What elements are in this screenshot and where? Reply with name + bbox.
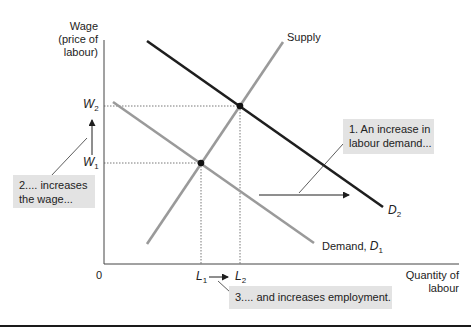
demand1-label: Demand, D1 <box>322 240 383 257</box>
callout-wage-increase: 2.... increases the wage... <box>13 175 95 208</box>
bottom-rule <box>0 325 471 327</box>
y-axis-label-line2: (price of <box>50 33 98 46</box>
demand1-prefix: Demand, <box>322 240 370 252</box>
supply-curve <box>147 42 283 244</box>
l1-base: L <box>196 269 203 283</box>
callout1-line1: 1. An increase in <box>349 122 428 136</box>
l2-sub: 2 <box>242 276 246 285</box>
l2-label: L2 <box>235 270 246 287</box>
demand1-curve <box>113 102 314 243</box>
callout-demand-increase: 1. An increase in labour demand... <box>343 119 434 154</box>
w1-base: W <box>83 155 94 169</box>
origin-label: 0 <box>96 269 102 282</box>
x-axis-label-line1: Quantity of <box>385 269 459 282</box>
w2-base: W <box>83 97 94 111</box>
l1-label: L1 <box>196 270 207 287</box>
demand2-base: D <box>388 203 397 217</box>
demand2-label: D2 <box>388 204 401 221</box>
callout1-line2: labour demand... <box>349 136 428 150</box>
callout2-line2: the wage... <box>19 192 89 206</box>
equilibrium-point-2 <box>237 103 244 110</box>
equilibrium-point-1 <box>198 160 205 167</box>
demand2-sub: 2 <box>397 210 401 219</box>
callout-employment-increase: 3.... and increases employment. <box>229 286 392 309</box>
w1-label: W1 <box>83 156 99 173</box>
l1-sub: 1 <box>203 276 207 285</box>
w2-sub: 2 <box>94 104 98 113</box>
x-axis-label: Quantity of labour <box>385 269 459 295</box>
callout3-text: 3.... and increases employment. <box>235 291 391 303</box>
w2-label: W2 <box>83 98 99 115</box>
callout2-line1: 2.... increases <box>19 178 89 192</box>
w1-sub: 1 <box>94 162 98 171</box>
callout2-leader <box>51 138 87 176</box>
supply-label: Supply <box>287 31 321 44</box>
demand1-sub: 1 <box>378 246 382 255</box>
y-axis-label: Wage (price of labour) <box>50 20 98 59</box>
x-axis-label-line2: labour <box>385 282 459 295</box>
y-axis-label-line1: Wage <box>50 20 98 33</box>
l2-base: L <box>235 269 242 283</box>
y-axis-label-line3: labour) <box>50 46 98 59</box>
